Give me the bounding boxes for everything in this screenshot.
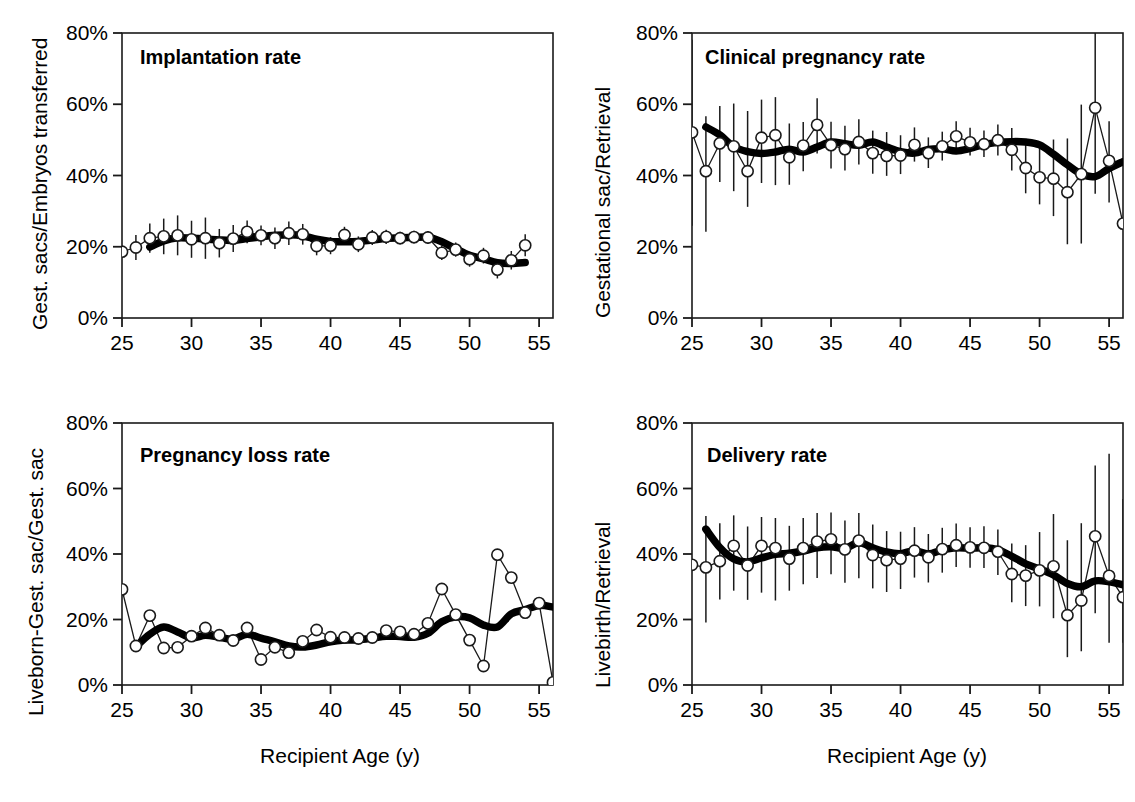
- series-group: [686, 454, 1128, 657]
- data-point-marker: [686, 559, 697, 570]
- y-tick-label: 60%: [66, 92, 108, 115]
- data-point-marker: [770, 543, 781, 554]
- data-point-marker: [450, 244, 461, 255]
- data-point-marker: [881, 555, 892, 566]
- data-point-marker: [547, 677, 558, 688]
- data-point-marker: [965, 542, 976, 553]
- data-point-marker: [992, 546, 1003, 557]
- y-tick-label: 80%: [66, 411, 108, 434]
- data-point-marker: [228, 233, 239, 244]
- data-point-marker: [1090, 102, 1101, 113]
- data-point-marker: [714, 138, 725, 149]
- x-tick-label: 25: [680, 331, 703, 354]
- y-tick-label: 0%: [78, 673, 108, 696]
- data-point-marker: [951, 540, 962, 551]
- panel-clinical-pregnancy-rate: Gestational sac/Retrieval Clinical pregn…: [567, 0, 1135, 400]
- data-point-marker: [839, 544, 850, 555]
- data-point-marker: [395, 233, 406, 244]
- data-point-marker: [728, 540, 739, 551]
- data-point-marker: [1034, 565, 1045, 576]
- data-point-marker: [436, 583, 447, 594]
- data-point-marker: [812, 536, 823, 547]
- data-point-marker: [1062, 610, 1073, 621]
- data-point-marker: [742, 166, 753, 177]
- data-point-marker: [1104, 155, 1115, 166]
- data-point-marker: [700, 166, 711, 177]
- panel-pregnancy-loss-rate: Liveborn-Gest. sac/Gest. sac Pregnancy l…: [0, 398, 568, 802]
- data-point-marker: [158, 642, 169, 653]
- data-point-marker: [1006, 144, 1017, 155]
- panel3-x-axis-label: Recipient Age (y): [120, 744, 560, 768]
- data-point-marker: [422, 232, 433, 243]
- x-tick-label: 40: [319, 331, 342, 354]
- data-point-marker: [464, 635, 475, 646]
- data-point-marker: [756, 540, 767, 551]
- x-tick-label: 45: [388, 331, 411, 354]
- x-tick-label: 45: [958, 331, 981, 354]
- data-point-marker: [784, 553, 795, 564]
- data-point-marker: [937, 141, 948, 152]
- x-tick-label: 35: [819, 331, 842, 354]
- data-point-marker: [1020, 570, 1031, 581]
- data-point-marker: [1090, 531, 1101, 542]
- series-group: [116, 549, 558, 688]
- data-point-marker: [408, 629, 419, 640]
- data-point-marker: [255, 654, 266, 665]
- data-point-marker: [909, 139, 920, 150]
- data-point-marker: [978, 139, 989, 150]
- data-point-marker: [992, 135, 1003, 146]
- data-point-marker: [422, 618, 433, 629]
- x-tick-label: 50: [1028, 698, 1051, 721]
- x-tick-label: 55: [527, 698, 550, 721]
- data-point-marker: [450, 609, 461, 620]
- data-point-marker: [825, 140, 836, 151]
- data-point-marker: [1076, 595, 1087, 606]
- x-tick-label: 50: [1028, 331, 1051, 354]
- data-point-marker: [269, 642, 280, 653]
- data-point-marker: [255, 230, 266, 241]
- data-point-marker: [784, 152, 795, 163]
- data-point-marker: [353, 239, 364, 250]
- y-tick-label: 80%: [636, 21, 678, 44]
- panel2-y-axis-label: Gestational sac/Retrieval: [591, 87, 615, 318]
- data-point-marker: [464, 254, 475, 265]
- data-point-marker: [478, 660, 489, 671]
- y-tick-label: 40%: [66, 164, 108, 187]
- data-point-marker: [214, 238, 225, 249]
- data-point-marker: [825, 534, 836, 545]
- data-point-marker: [283, 647, 294, 658]
- panel-delivery-rate: Livebirth/Retrieval Delivery rate 0%20%4…: [567, 398, 1135, 802]
- data-point-marker: [367, 632, 378, 643]
- y-tick-label: 0%: [648, 673, 678, 696]
- data-point-marker: [923, 148, 934, 159]
- data-point-marker: [325, 632, 336, 643]
- y-tick-label: 20%: [66, 608, 108, 631]
- data-point-marker: [714, 556, 725, 567]
- data-point-marker: [492, 549, 503, 560]
- y-tick-label: 0%: [78, 306, 108, 329]
- data-point-marker: [770, 130, 781, 141]
- data-point-marker: [339, 229, 350, 240]
- x-tick-label: 50: [458, 698, 481, 721]
- x-tick-label: 25: [680, 698, 703, 721]
- data-point-marker: [172, 230, 183, 241]
- panel4-y-axis-label: Livebirth/Retrieval: [591, 522, 615, 688]
- data-point-marker: [1034, 172, 1045, 183]
- plot-frame: [122, 33, 553, 318]
- data-point-marker: [867, 549, 878, 560]
- data-point-marker: [923, 552, 934, 563]
- data-point-marker: [408, 232, 419, 243]
- x-tick-label: 50: [458, 331, 481, 354]
- data-point-marker: [353, 633, 364, 644]
- figure-root: Gest. sacs/Embryos transferred Implantat…: [0, 0, 1135, 802]
- y-tick-label: 80%: [66, 21, 108, 44]
- panel3-y-axis-label: Liveborn-Gest. sac/Gest. sac: [24, 448, 48, 716]
- data-point-marker: [130, 640, 141, 651]
- panel-implantation-rate: Gest. sacs/Embryos transferred Implantat…: [0, 0, 568, 400]
- panel1-y-axis-label: Gest. sacs/Embryos transferred: [28, 38, 52, 330]
- data-point-marker: [506, 255, 517, 266]
- data-point-marker: [520, 607, 531, 618]
- x-tick-label: 55: [527, 331, 550, 354]
- data-point-marker: [311, 240, 322, 251]
- data-point-marker: [1117, 218, 1128, 229]
